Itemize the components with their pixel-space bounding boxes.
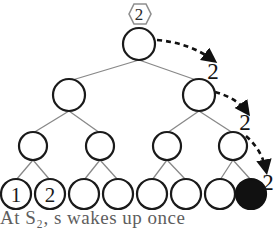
tree-node-l2-0[interactable] xyxy=(53,79,85,111)
dashed-arrow-1 xyxy=(157,40,213,60)
tree-node-l3-2[interactable] xyxy=(153,132,181,160)
edge-l3-1-left xyxy=(84,160,100,180)
tree-node-l3-3[interactable] xyxy=(219,132,247,160)
tree-diagram-svg: 2 xyxy=(0,0,278,231)
edge-l2-1-right xyxy=(199,111,233,133)
dashed-arrow-2 xyxy=(215,92,247,112)
edge-root-left xyxy=(69,60,139,81)
tree-leaf-6[interactable] xyxy=(205,179,235,209)
edge-l3-0-left xyxy=(16,160,33,180)
tree-leaf-2[interactable] xyxy=(69,179,99,209)
tree-leaf-3[interactable] xyxy=(103,179,133,209)
figure-caption: At S₂, s wakes up once xyxy=(0,210,278,231)
edge-l2-0-right xyxy=(69,111,100,133)
dashed-arrow-3-label: 2 xyxy=(262,170,274,195)
edge-l2-1-left xyxy=(167,111,199,133)
tree-leaf-0-label: 1 xyxy=(11,183,22,207)
edge-l3-3-left xyxy=(220,160,233,180)
edge-l3-0-right xyxy=(33,160,50,180)
edge-root-right xyxy=(139,60,199,81)
hexagon-label: 2 xyxy=(135,5,144,24)
edge-l3-1-right xyxy=(100,160,118,180)
binary-tree-figure: 2 xyxy=(0,0,278,231)
figure-caption-text: At S₂, s wakes up once xyxy=(0,210,185,229)
dashed-arrow-3 xyxy=(246,136,266,170)
edge-l3-3-right xyxy=(233,160,251,180)
dashed-arrow-2-label: 2 xyxy=(239,110,251,135)
dashed-arrow-1-label: 2 xyxy=(207,59,219,84)
tree-leaf-5[interactable] xyxy=(171,179,201,209)
tree-node-root[interactable] xyxy=(123,28,155,60)
tree-node-l3-1[interactable] xyxy=(86,132,114,160)
edge-l3-2-right xyxy=(167,160,186,180)
edge-l2-0-left xyxy=(33,111,69,133)
tree-nodes xyxy=(1,28,266,209)
tree-leaf-4[interactable] xyxy=(137,179,167,209)
hexagon-marker: 2 xyxy=(129,4,151,24)
edge-l3-2-left xyxy=(152,160,167,180)
tree-leaf-1-label: 2 xyxy=(45,183,56,207)
tree-node-l3-0[interactable] xyxy=(19,132,47,160)
